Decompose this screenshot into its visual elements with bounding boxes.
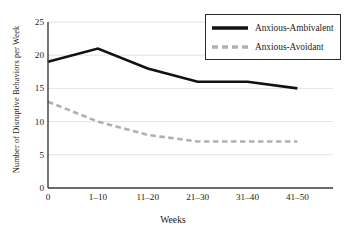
y-axis-tick-labels: 0 5 10 15 20 25	[26, 0, 44, 237]
legend-item-anxious-avoidant: Anxious-Avoidant	[212, 38, 324, 56]
legend-label: Anxious-Ambivalent	[255, 23, 334, 33]
legend-item-anxious-ambivalent: Anxious-Ambivalent	[212, 19, 334, 37]
y-tick-label: 5	[39, 150, 44, 160]
x-tick-label: 1–10	[89, 192, 107, 202]
x-tick-label: 31–40	[236, 192, 259, 202]
line-chart: Number of Disruptive Behaviors per Week …	[0, 0, 350, 237]
legend-label: Anxious-Avoidant	[255, 42, 324, 52]
y-tick-label: 10	[35, 117, 44, 127]
y-tick-label: 25	[35, 17, 44, 27]
legend-swatch-dashed-line-icon	[212, 42, 248, 52]
chart-legend: Anxious-Ambivalent Anxious-Avoidant	[205, 14, 341, 60]
y-tick-label: 20	[35, 50, 44, 60]
x-tick-label: 21–30	[186, 192, 209, 202]
x-tick-label: 0	[46, 192, 51, 202]
x-tick-label: 11–20	[136, 192, 159, 202]
y-axis-title: Number of Disruptive Behaviors per Week	[12, 10, 21, 190]
y-tick-label: 0	[39, 183, 44, 193]
legend-swatch-solid-line-icon	[212, 23, 248, 33]
y-tick-label: 15	[35, 83, 44, 93]
x-axis-title: Weeks	[48, 214, 298, 225]
x-tick-label: 41–50	[286, 192, 309, 202]
